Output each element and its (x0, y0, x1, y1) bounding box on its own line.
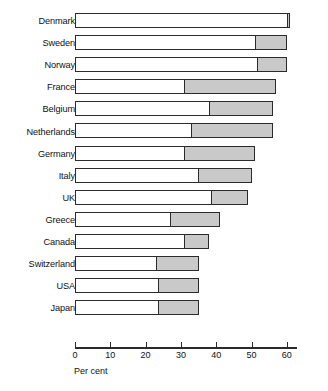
x-axis-tick-label: 0 (72, 350, 77, 360)
bar-row: Belgium (0, 98, 328, 120)
bar-total (75, 300, 199, 315)
bar-shaded-segment (191, 124, 271, 137)
bar-shaded-segment (255, 36, 286, 49)
bar-shaded-segment (158, 301, 198, 314)
bar-row-label: Belgium (3, 104, 75, 114)
bar-row: Germany (0, 143, 328, 165)
bar-row: Netherlands (0, 120, 328, 142)
bar-row-label: USA (3, 281, 75, 291)
x-axis-tick-label: 50 (246, 350, 256, 360)
bar-total (75, 146, 255, 161)
bar-row-label: Norway (3, 60, 75, 70)
bar-row: UK (0, 187, 328, 209)
bar-total (75, 57, 287, 72)
bar-shaded-segment (184, 80, 275, 93)
x-axis-tick (110, 342, 111, 347)
bar-shaded-segment (257, 58, 286, 71)
bar-rows: DenmarkSwedenNorwayFranceBelgiumNetherla… (0, 10, 328, 319)
bar-total (75, 35, 287, 50)
bar-row-label: Italy (3, 171, 75, 181)
bar-row: USA (0, 275, 328, 297)
x-axis-tick-label: 40 (211, 350, 221, 360)
bar-total (75, 190, 248, 205)
bar-row: France (0, 76, 328, 98)
bar-row: Italy (0, 165, 328, 187)
bar-shaded-segment (156, 257, 198, 270)
x-axis-tick (252, 342, 253, 347)
x-axis-tick-label: 20 (141, 350, 151, 360)
bar-total (75, 123, 273, 138)
bar-row-label: Japan (3, 303, 75, 313)
bar-chart: DenmarkSwedenNorwayFranceBelgiumNetherla… (0, 0, 328, 391)
bar-row: Canada (0, 231, 328, 253)
bar-row-label: UK (3, 193, 75, 203)
bar-row-label: Netherlands (3, 127, 75, 137)
bar-shaded-segment (158, 279, 198, 292)
x-axis (75, 347, 297, 349)
x-axis-tick-label: 30 (176, 350, 186, 360)
x-axis-tick (216, 342, 217, 347)
bar-row-label: Denmark (3, 16, 75, 26)
x-axis-tick (146, 342, 147, 347)
bar-row: Sweden (0, 32, 328, 54)
x-axis-tick-label: 60 (282, 350, 292, 360)
x-axis-tick (287, 342, 288, 347)
bar-total (75, 278, 199, 293)
bar-total (75, 256, 199, 271)
bar-total (75, 13, 290, 28)
bar-row: Switzerland (0, 253, 328, 275)
bar-row-label: Greece (3, 215, 75, 225)
bar-shaded-segment (198, 169, 250, 182)
bar-shaded-segment (287, 14, 290, 27)
bar-shaded-segment (211, 191, 247, 204)
bar-total (75, 234, 209, 249)
bar-row-label: Switzerland (3, 259, 75, 269)
x-axis-title: Per cent (74, 366, 108, 376)
x-axis-tick (75, 342, 76, 347)
bar-total (75, 79, 276, 94)
bar-row: Greece (0, 209, 328, 231)
bar-row-label: Germany (3, 149, 75, 159)
bar-row-label: France (3, 82, 75, 92)
bar-shaded-segment (209, 102, 272, 115)
bar-total (75, 168, 252, 183)
x-axis-tick (181, 342, 182, 347)
x-axis-tick-label: 10 (105, 350, 115, 360)
bar-row-label: Canada (3, 237, 75, 247)
bar-total (75, 212, 220, 227)
bar-total (75, 101, 273, 116)
bar-row: Denmark (0, 10, 328, 32)
bar-row: Japan (0, 297, 328, 319)
bar-row: Norway (0, 54, 328, 76)
bar-shaded-segment (184, 147, 254, 160)
bar-shaded-segment (184, 235, 208, 248)
bar-row-label: Sweden (3, 38, 75, 48)
bar-shaded-segment (170, 213, 219, 226)
